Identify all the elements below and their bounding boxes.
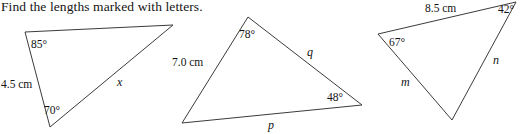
triangle-middle-outline xyxy=(182,17,362,123)
triangle-right-angle-67: 67° xyxy=(389,36,405,48)
triangle-middle-side-q: q xyxy=(307,46,313,58)
figure-stage: Find the lengths marked with letters. 85… xyxy=(0,0,524,134)
triangle-middle-side-7-0-cm: 7.0 cm xyxy=(172,56,203,68)
triangles-drawing xyxy=(0,0,524,134)
triangle-left-angle-85: 85° xyxy=(31,38,47,50)
triangle-middle-angle-48: 48° xyxy=(327,91,343,103)
triangle-left-side-x: x xyxy=(117,76,122,88)
triangle-middle-side-p: p xyxy=(268,119,274,131)
triangle-left-side-4-5-cm: 4.5 cm xyxy=(1,78,32,90)
triangle-middle-angle-78: 78° xyxy=(239,28,255,40)
triangle-right-angle-42: 42° xyxy=(498,3,514,15)
triangle-right-side-n: n xyxy=(493,54,499,66)
triangle-right-side-8-5-cm: 8.5 cm xyxy=(425,2,456,14)
triangle-middle-shape xyxy=(182,17,362,123)
triangle-right-side-m: m xyxy=(401,76,410,88)
triangle-left-angle-70: 70° xyxy=(44,104,60,116)
